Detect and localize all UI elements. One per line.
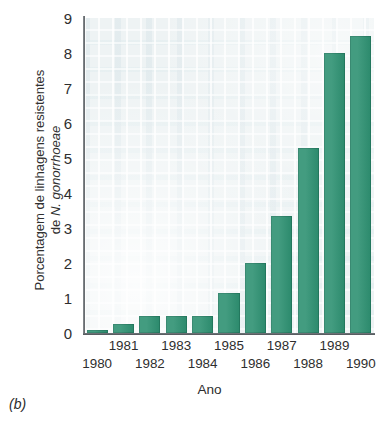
x-tick-label-1980: 1980: [82, 356, 112, 371]
panel-caption: (b): [9, 396, 26, 412]
x-tick-label-1984: 1984: [188, 356, 218, 371]
x-tick-label-1989: 1989: [320, 338, 350, 353]
x-tick-label-1990: 1990: [346, 356, 376, 371]
x-tick-label-1981: 1981: [109, 338, 139, 353]
x-axis-ticks: 1980198119821983198419851986198719881989…: [0, 0, 391, 422]
x-tick-label-1988: 1988: [293, 356, 323, 371]
x-axis-title: Ano: [28, 382, 391, 397]
x-tick-label-1987: 1987: [267, 338, 297, 353]
x-tick-label-1986: 1986: [240, 356, 270, 371]
x-tick-label-1982: 1982: [135, 356, 165, 371]
x-tick-label-1985: 1985: [214, 338, 244, 353]
x-tick-label-1983: 1983: [161, 338, 191, 353]
figure-panel: Porcentagem de linhagens resistentes de …: [0, 0, 391, 422]
